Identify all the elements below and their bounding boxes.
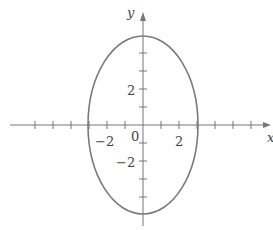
x-axis	[10, 121, 271, 129]
origin-label: 0	[131, 129, 139, 144]
y-tick-label-2: 2	[127, 83, 135, 98]
ellipse-plot: y x 0 −2 2 2 −2	[0, 0, 273, 230]
y-axis-label: y	[126, 5, 135, 20]
y-axis	[139, 12, 147, 226]
x-tick-label-2: 2	[175, 134, 183, 149]
y-tick-label-neg2: −2	[116, 155, 135, 170]
x-tick-label-neg2: −2	[95, 134, 114, 149]
x-axis-label: x	[267, 130, 273, 145]
